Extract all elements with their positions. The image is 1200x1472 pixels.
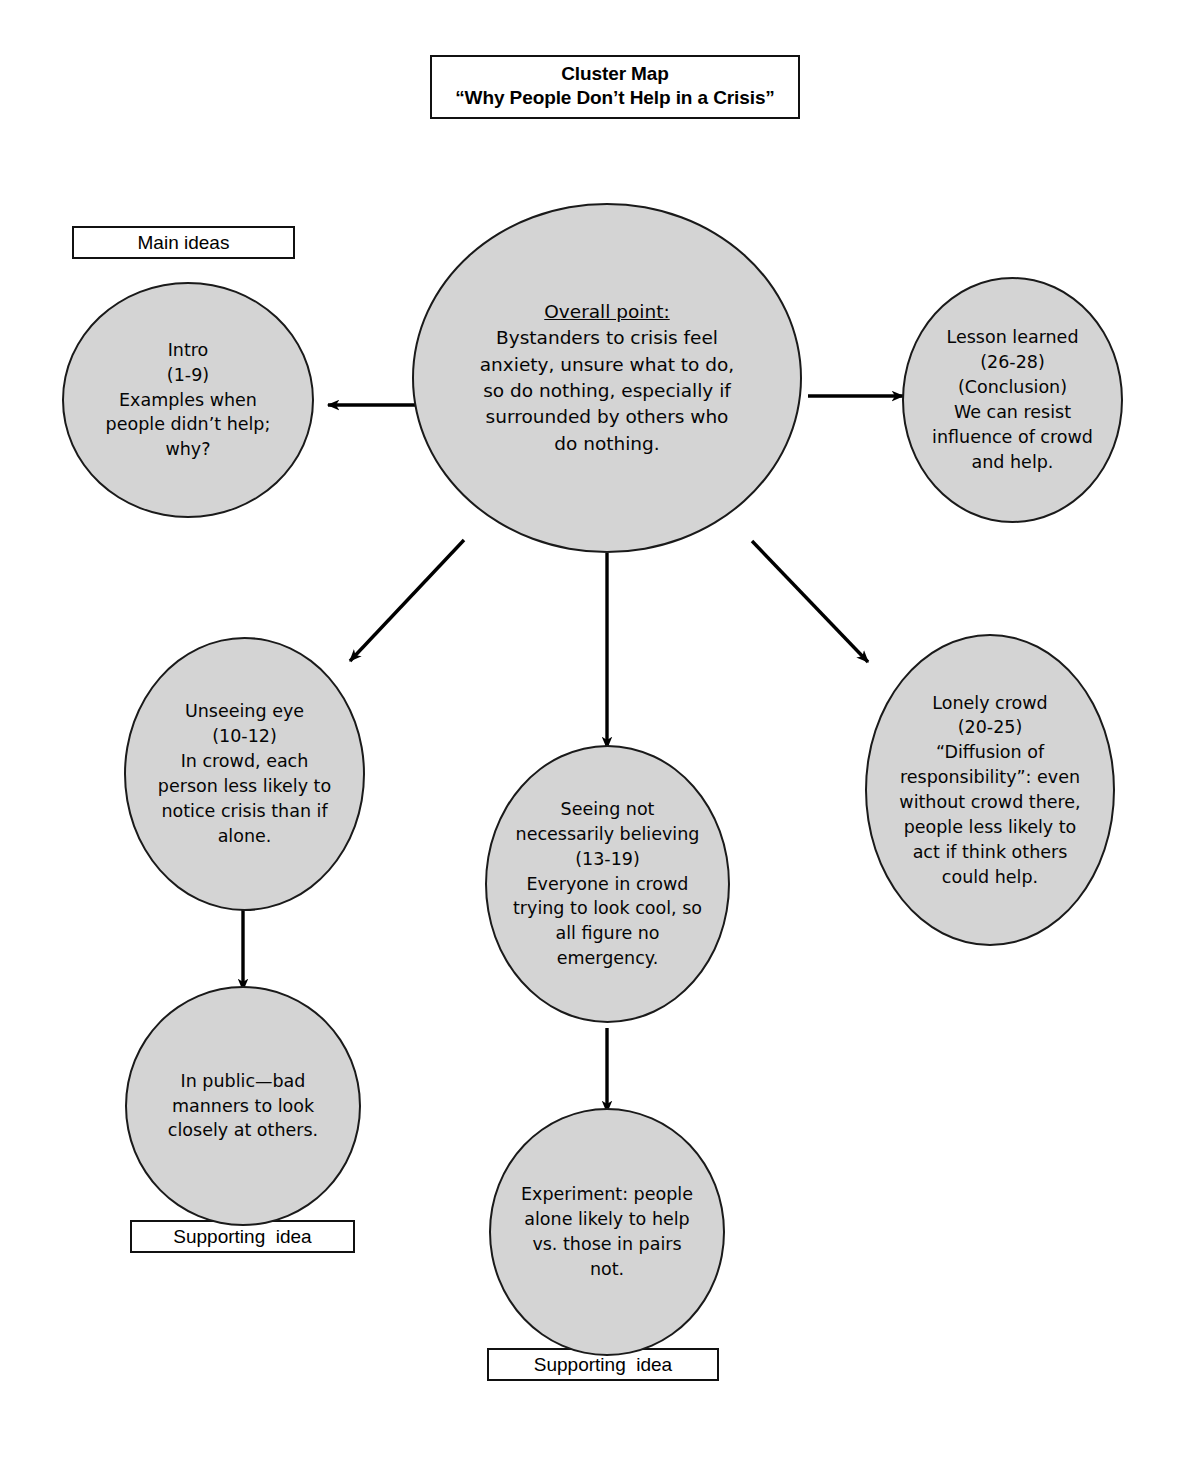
page-title: Cluster Map “Why People Don’t Help in a …: [430, 55, 800, 119]
node-overall-point-heading: Overall point:: [474, 299, 741, 325]
node-unseeing-eye[interactable]: Unseeing eye (10-12) In crowd, each pers…: [124, 637, 365, 911]
node-lonely-crowd-text: Lonely crowd (20-25) “Diffusion of respo…: [893, 691, 1086, 890]
node-in-public-text: In public—bad manners to look closely at…: [162, 1069, 324, 1144]
node-experiment-text: Experiment: people alone likely to help …: [515, 1182, 699, 1281]
node-intro[interactable]: Intro (1-9) Examples when people didn’t …: [62, 282, 314, 518]
node-in-public[interactable]: In public—bad manners to look closely at…: [125, 986, 361, 1226]
node-unseeing-eye-text: Unseeing eye (10-12) In crowd, each pers…: [152, 699, 337, 848]
node-intro-text: Intro (1-9) Examples when people didn’t …: [100, 338, 277, 462]
legend-main-ideas: Main ideas: [72, 226, 295, 259]
title-line-2: “Why People Don’t Help in a Crisis”: [438, 86, 792, 110]
node-lesson-learned-text: Lesson learned (26-28) (Conclusion) We c…: [926, 325, 1099, 474]
node-seeing-not-believing[interactable]: Seeing not necessarily believing (13-19)…: [485, 745, 730, 1023]
node-lesson-learned[interactable]: Lesson learned (26-28) (Conclusion) We c…: [902, 277, 1123, 523]
node-seeing-not-believing-text: Seeing not necessarily believing (13-19)…: [507, 797, 708, 971]
cluster-map-page: Cluster Map “Why People Don’t Help in a …: [0, 0, 1200, 1472]
node-overall-point-body: Bystanders to crisis feel anxiety, unsur…: [474, 325, 741, 456]
node-lonely-crowd[interactable]: Lonely crowd (20-25) “Diffusion of respo…: [865, 634, 1115, 946]
arrow-central-to-unseeing-eye: [350, 540, 464, 661]
node-experiment[interactable]: Experiment: people alone likely to help …: [489, 1108, 725, 1356]
node-overall-point[interactable]: Overall point: Bystanders to crisis feel…: [412, 203, 802, 553]
arrow-central-to-lonely-crowd: [752, 541, 868, 662]
title-line-1: Cluster Map: [438, 62, 792, 86]
